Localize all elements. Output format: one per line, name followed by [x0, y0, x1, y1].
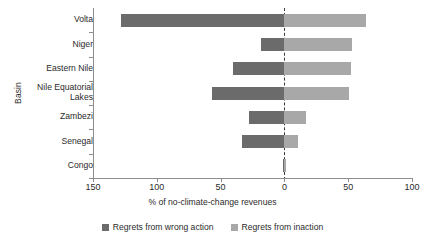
y-axis-tick-label: Senegal — [10, 137, 93, 147]
y-axis-tick — [89, 81, 93, 82]
x-axis-tick-label: 50 — [328, 182, 368, 192]
x-axis-tick-label: 150 — [73, 182, 113, 192]
bar-segment — [284, 135, 298, 148]
bar-segment — [233, 62, 284, 75]
y-axis-tick — [89, 32, 93, 33]
y-axis-line — [93, 8, 94, 178]
y-axis-tick — [89, 105, 93, 106]
legend-item[interactable]: Regrets from wrong action — [102, 222, 214, 232]
bar-segment — [212, 87, 285, 100]
y-axis-tick — [89, 129, 93, 130]
y-axis-tick-labels: VoltaNigerEastern NileNile Equatorial La… — [10, 8, 93, 178]
bar-segment — [284, 14, 366, 27]
x-axis-tick-label: 50 — [201, 182, 241, 192]
legend-item[interactable]: Regrets from inaction — [231, 222, 324, 232]
y-axis-tick-label: Volta — [10, 15, 93, 25]
x-axis-tick-label: 100 — [392, 182, 425, 192]
y-axis-tick — [89, 154, 93, 155]
y-axis-tick-label: Niger — [10, 40, 93, 50]
bar-segment — [249, 111, 285, 124]
bar-segment — [242, 135, 284, 148]
y-axis-tick-label: Congo — [10, 161, 93, 171]
x-axis-title: % of no-climate-change revenues — [0, 197, 425, 207]
bar-segment — [284, 159, 285, 172]
y-axis-tick-label: Eastern Nile — [10, 64, 93, 74]
legend-label: Regrets from wrong action — [113, 222, 214, 232]
bar-segment — [284, 87, 349, 100]
bar-segment — [261, 38, 284, 51]
bar-segment — [121, 14, 284, 27]
plot-area — [93, 8, 412, 178]
x-axis-line — [93, 178, 412, 179]
bar-segment — [284, 62, 350, 75]
chart-legend: Regrets from wrong actionRegrets from in… — [0, 222, 425, 232]
bar-segment — [284, 38, 352, 51]
y-axis-tick-label: Nile Equatorial Lakes — [10, 83, 93, 102]
legend-label: Regrets from inaction — [242, 222, 324, 232]
y-axis-tick — [89, 57, 93, 58]
bar-chart: Basin VoltaNigerEastern NileNile Equator… — [0, 0, 425, 242]
x-axis-tick-label: 100 — [137, 182, 177, 192]
bar-segment — [284, 111, 306, 124]
x-axis-tick-label: 0 — [264, 182, 304, 192]
legend-swatch-icon — [102, 224, 109, 231]
x-axis-tick-labels: 15010050050100 — [93, 182, 412, 196]
legend-swatch-icon — [231, 224, 238, 231]
y-axis-tick-label: Zambezi — [10, 112, 93, 122]
